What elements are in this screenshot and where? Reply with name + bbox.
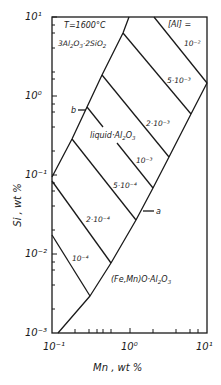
mullite-phase-label: 3Al2O3·2SiO2 — [58, 39, 107, 49]
y-tick-1e0: 10⁰ — [25, 90, 42, 101]
iso-label-5e-3: 5·10⁻³ — [167, 76, 191, 85]
iso-label-5e-4: 5·10⁻⁴ — [113, 181, 137, 190]
iso-line-1e-3-upper — [87, 107, 103, 127]
plot-frame — [52, 17, 207, 333]
x-tick-1e0: 10⁰ — [121, 341, 138, 352]
iso-line-5e-4 — [72, 139, 136, 220]
al-legend-header: [Al] = — [168, 20, 191, 29]
temperature-label: T=1600°C — [64, 21, 106, 30]
iso-line-2e-3 — [102, 75, 169, 157]
marker-b: b — [71, 106, 76, 115]
marker-a: a — [156, 207, 161, 216]
iso-label-1e-2: 10⁻² — [184, 39, 201, 48]
phase-diagram: T=1600°C 3Al2O3·2SiO2 [Al] = 10⁻² 5·10⁻³… — [0, 0, 221, 385]
x-axis-ticks — [75, 328, 198, 333]
y-tick-1e-3: 10⁻³ — [25, 327, 47, 338]
iso-label-2e-3: 2·10⁻³ — [146, 119, 170, 128]
x-tick-1e-1: 10⁻¹ — [43, 341, 65, 352]
y-axis-ticks — [52, 17, 57, 309]
y-axis-label: Si , wt % — [12, 183, 23, 226]
x-tick-1e1: 10¹ — [196, 341, 213, 352]
iso-label-1e-4: 10⁻⁴ — [72, 254, 89, 263]
x-axis-label: Mn , wt % — [93, 362, 142, 373]
y-tick-1e-1: 10⁻¹ — [25, 169, 47, 180]
spinel-phase-label: (Fe,Mn)O·Al2O3 — [111, 275, 172, 285]
y-tick-1e-2: 10⁻² — [25, 248, 47, 259]
liquid-phase-label: liquid·Al2O3 — [90, 131, 136, 141]
iso-label-2e-4: 2·10⁻⁴ — [86, 215, 110, 224]
iso-line-5e-3 — [123, 33, 191, 114]
iso-line-1e-4 — [52, 235, 90, 296]
iso-label-1e-3: 10⁻³ — [136, 156, 153, 165]
y-tick-1e1: 10¹ — [25, 11, 42, 22]
